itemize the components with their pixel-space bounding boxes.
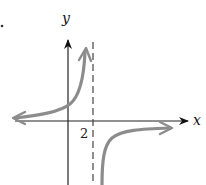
graph-diagram: y x 2 — [0, 0, 206, 185]
stray-mark — [1, 25, 4, 28]
y-axis-label: y — [61, 10, 71, 26]
left-branch-curve — [13, 48, 91, 124]
right-branch-curve — [102, 122, 172, 185]
asymptote-tick-label: 2 — [80, 126, 88, 141]
x-axis-label: x — [193, 112, 201, 128]
